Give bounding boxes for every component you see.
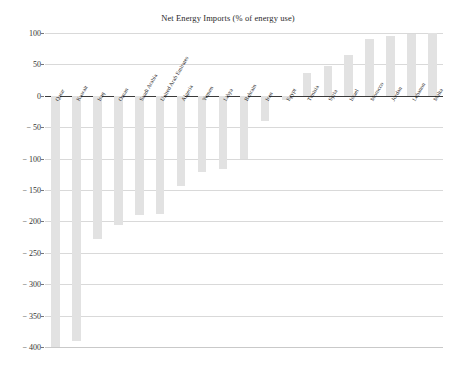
plot-area — [45, 33, 443, 347]
bar — [428, 33, 437, 96]
y-axis-tick-mark — [41, 96, 44, 97]
bar — [219, 96, 228, 169]
y-axis-tick-label: − 400 — [0, 343, 41, 352]
bar — [177, 96, 186, 186]
bar — [407, 34, 416, 96]
bar — [240, 96, 249, 159]
y-axis-tick-label: − 200 — [0, 217, 41, 226]
gridline — [45, 190, 443, 191]
bar — [303, 73, 312, 96]
y-axis-tick-mark — [41, 347, 44, 348]
gridline — [45, 316, 443, 317]
gridline — [45, 284, 443, 285]
y-axis-tick-mark — [41, 64, 44, 65]
gridline — [45, 221, 443, 222]
y-axis-tick-mark — [41, 284, 44, 285]
y-axis-tick-mark — [41, 127, 44, 128]
bar — [386, 36, 395, 96]
y-axis-tick-mark — [41, 33, 44, 34]
bar — [261, 96, 270, 121]
y-axis-tick-mark — [41, 221, 44, 222]
bar — [198, 96, 207, 173]
y-axis-tick-label: − 250 — [0, 248, 41, 257]
bar — [344, 55, 353, 96]
y-axis-tick-mark — [41, 316, 44, 317]
y-axis-tick-mark — [41, 159, 44, 160]
chart-container: Net Energy Imports (% of energy use) 100… — [0, 0, 456, 369]
gridline — [45, 253, 443, 254]
y-axis-tick-label: 0 — [0, 91, 41, 100]
y-axis-tick-label: 100 — [0, 29, 41, 38]
y-axis-tick-mark — [41, 190, 44, 191]
chart-title: Net Energy Imports (% of energy use) — [0, 13, 456, 23]
gridline — [45, 33, 443, 34]
bar — [93, 96, 102, 239]
y-axis-tick-label: − 50 — [0, 123, 41, 132]
y-axis-tick-label: 50 — [0, 60, 41, 69]
gridline — [45, 347, 443, 348]
bar — [282, 96, 291, 100]
bar — [135, 96, 144, 215]
y-axis-tick-mark — [41, 253, 44, 254]
bar — [114, 96, 123, 225]
bar — [324, 66, 333, 96]
gridline — [45, 64, 443, 65]
y-axis-tick-label: − 150 — [0, 186, 41, 195]
y-axis-tick-label: − 350 — [0, 311, 41, 320]
bar — [72, 96, 81, 341]
y-axis-tick-label: − 300 — [0, 280, 41, 289]
y-axis-tick-label: − 100 — [0, 154, 41, 163]
bar — [156, 96, 165, 214]
bar — [365, 39, 374, 96]
bar — [51, 96, 60, 347]
